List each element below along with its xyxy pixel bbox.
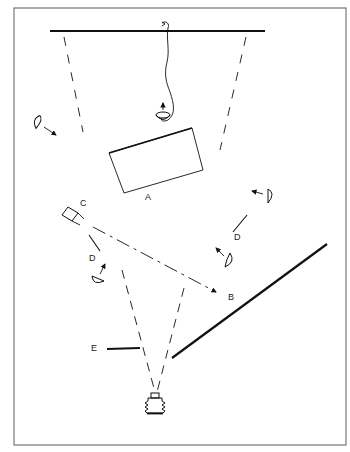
label-B: B [228, 292, 234, 302]
overhead-lamp-icon [156, 103, 170, 120]
label-D-left: D [89, 253, 96, 263]
light-lower-left-icon [92, 264, 105, 283]
axis-C-to-B [93, 227, 216, 292]
view-line-left [64, 37, 83, 132]
label-A: A [145, 192, 151, 202]
label-C: C [80, 198, 87, 208]
camera-view-left [122, 270, 155, 392]
cable-hook-icon [162, 22, 165, 26]
camera-C-icon [62, 207, 84, 225]
lighting-diagram: A C B D D E [0, 0, 350, 452]
light-upper-right-icon [252, 189, 272, 203]
flag-E [107, 348, 140, 349]
light-mid-right-icon [216, 248, 232, 267]
light-upper-left-icon [33, 115, 56, 135]
view-line-right [220, 37, 246, 150]
subject-A [109, 128, 203, 193]
reflector-D-left [89, 235, 100, 251]
label-D-right: D [234, 232, 241, 242]
reflector-D-right [233, 215, 247, 232]
main-camera-icon [145, 393, 165, 414]
subject-A-top-edge [109, 128, 192, 153]
label-E: E [91, 343, 97, 353]
camera-view-right [157, 288, 184, 392]
long-flag-panel [172, 244, 327, 358]
frame-border [14, 8, 346, 445]
